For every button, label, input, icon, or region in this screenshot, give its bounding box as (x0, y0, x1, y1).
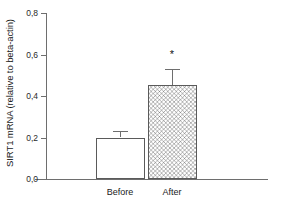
bar-chart-figure: SIRT1 mRNA (relative to beta-actin) 0,00… (0, 0, 283, 210)
y-tick-mark: 0,0 (41, 179, 46, 180)
error-bar-cap-after (165, 69, 180, 70)
y-tick-label: 0,8 (26, 6, 38, 20)
plot-area: 0,00,20,40,60,8 * (46, 13, 268, 179)
y-tick-label: 0,0 (26, 172, 38, 186)
bar-after (148, 85, 197, 179)
y-tick-mark: 0,4 (41, 96, 46, 97)
y-tick-label: 0,4 (26, 89, 38, 103)
y-axis-line (46, 13, 47, 179)
y-tick-mark: 0,8 (41, 13, 46, 14)
error-bar-cap-before (113, 131, 128, 132)
significance-asterisk: * (152, 50, 192, 58)
bar-before (96, 138, 145, 180)
y-axis-label: SIRT1 mRNA (relative to beta-actin) (3, 0, 17, 188)
error-bar-stem-after (172, 69, 173, 85)
y-tick-mark: 0,6 (41, 55, 46, 56)
y-tick-label: 0,2 (26, 131, 38, 145)
y-tick-label: 0,6 (26, 48, 38, 62)
x-axis-line (35, 179, 268, 180)
y-tick-mark: 0,2 (41, 138, 46, 139)
x-tick-label-after: After (132, 186, 212, 198)
